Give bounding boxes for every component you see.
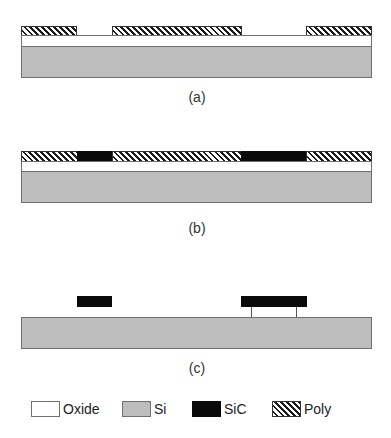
- sic-c-left: [77, 296, 112, 307]
- legend-label-si: Si: [154, 401, 166, 417]
- legend-label-oxide: Oxide: [63, 401, 100, 417]
- legend-label-sic: SiC: [224, 401, 247, 417]
- caption-c: (c): [177, 360, 217, 376]
- legend-swatch-oxide: [31, 401, 60, 417]
- si-substrate-c: [21, 317, 372, 349]
- si-substrate-a: [21, 46, 372, 78]
- sic-c-right: [241, 296, 307, 307]
- legend-label-poly: Poly: [304, 401, 331, 417]
- caption-b: (b): [177, 220, 217, 236]
- anchor-post-right: [296, 307, 297, 317]
- legend-swatch-sic: [192, 401, 221, 417]
- caption-a: (a): [177, 89, 217, 105]
- anchor-post-left: [251, 307, 252, 317]
- legend-swatch-poly: [272, 401, 301, 417]
- legend-swatch-si: [122, 401, 151, 417]
- si-substrate-b: [21, 171, 372, 203]
